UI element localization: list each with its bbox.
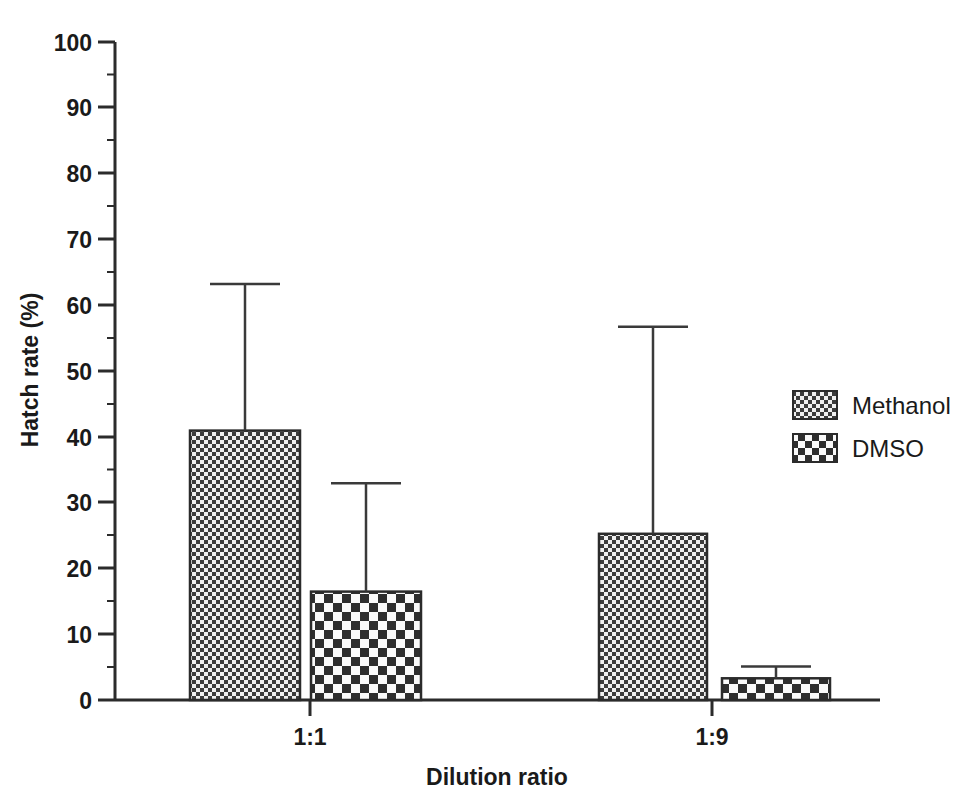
error-bar-methanol-1-9 — [618, 327, 688, 534]
chart-canvas: 100 90 80 70 60 50 40 30 20 10 0 Hatch r… — [0, 0, 969, 792]
y-tick-label-70: 70 — [66, 227, 92, 253]
hatch-rate-bar-chart: 100 90 80 70 60 50 40 30 20 10 0 Hatch r… — [0, 0, 969, 792]
error-bar-dmso-1-9 — [741, 667, 811, 679]
legend: Methanol DMSO — [793, 391, 951, 462]
bar-methanol-1-9 — [599, 534, 707, 700]
y-tick-label-80: 80 — [66, 161, 92, 187]
y-tick-label-100: 100 — [54, 30, 92, 56]
y-tick-label-90: 90 — [66, 95, 92, 121]
y-tick-label-20: 20 — [66, 556, 92, 582]
x-axis-title: Dilution ratio — [426, 764, 568, 790]
y-tick-label-50: 50 — [66, 359, 92, 385]
y-tick-label-0: 0 — [79, 688, 92, 714]
legend-item-dmso[interactable]: DMSO — [793, 434, 924, 462]
legend-swatch-dmso — [793, 434, 837, 462]
x-axis: 1:1 1:9 Dilution ratio — [115, 700, 880, 790]
error-bar-dmso-1-1 — [331, 483, 401, 591]
legend-item-methanol[interactable]: Methanol — [793, 391, 951, 419]
x-tick-label-1-1: 1:1 — [293, 724, 326, 750]
bar-dmso-1-1 — [311, 592, 421, 700]
legend-swatch-methanol — [793, 391, 837, 419]
y-tick-label-30: 30 — [66, 490, 92, 516]
error-bar-methanol-1-1 — [210, 284, 280, 431]
bar-methanol-1-1 — [190, 431, 300, 700]
legend-label-methanol: Methanol — [852, 392, 951, 419]
x-tick-label-1-9: 1:9 — [695, 724, 728, 750]
y-tick-label-10: 10 — [66, 622, 92, 648]
bar-dmso-1-9 — [722, 678, 830, 700]
legend-label-dmso: DMSO — [852, 435, 924, 462]
y-axis: 100 90 80 70 60 50 40 30 20 10 0 Hatch r… — [17, 30, 115, 714]
y-tick-label-60: 60 — [66, 293, 92, 319]
y-tick-label-40: 40 — [66, 425, 92, 451]
bars-group — [190, 431, 830, 700]
y-axis-title: Hatch rate (%) — [17, 293, 43, 448]
